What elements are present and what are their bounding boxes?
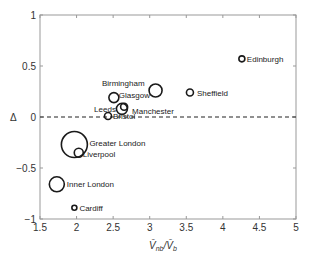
data-point-label: Cardiff	[79, 204, 103, 213]
scatter-chart: 1.522.533.544.5510.50−0.5−1 EdinburghShe…	[0, 0, 309, 262]
x-tick-label: 5	[293, 222, 299, 233]
data-point-label: Sheffield	[197, 89, 228, 98]
x-tick-label: 4	[220, 222, 226, 233]
data-point-label: Greater London	[89, 139, 145, 148]
data-point-marker	[186, 89, 193, 96]
data-point-label: Liverpool	[83, 150, 116, 159]
data-point-label: Manchester	[132, 107, 174, 116]
data-point-label: Edinburgh	[247, 55, 283, 64]
data-point-marker	[239, 56, 245, 62]
data-point-label: Birmingham	[102, 79, 145, 88]
data-point-label: Inner London	[67, 180, 114, 189]
axes: 1.522.533.544.5510.50−0.5−1	[16, 10, 299, 233]
x-label-sub1: nb	[156, 245, 164, 252]
data-point-label: Bristol	[113, 112, 135, 121]
data-point-marker	[72, 205, 77, 210]
y-axis-label: Δ	[10, 112, 17, 123]
x-label-sub2: b	[173, 245, 177, 252]
x-tick-label: 2	[74, 222, 80, 233]
data-point-marker	[49, 177, 64, 192]
x-axis-label: V̄nb/V̄b	[149, 239, 177, 252]
x-tick-label: 2.5	[106, 222, 120, 233]
y-tick-label: 1	[30, 10, 36, 21]
data-points: EdinburghSheffieldBirminghamGlasgowLeeds…	[49, 55, 283, 213]
data-point-marker	[109, 93, 119, 103]
data-point-label: Glasgow	[119, 91, 150, 100]
y-tick-label: 0	[30, 112, 36, 123]
data-point-marker	[149, 84, 162, 97]
x-tick-label: 3	[147, 222, 153, 233]
y-tick-label: 0.5	[22, 61, 36, 72]
x-tick-label: 4.5	[252, 222, 266, 233]
y-tick-label: −0.5	[16, 163, 36, 174]
x-tick-label: 3.5	[179, 222, 193, 233]
y-tick-label: −1	[25, 214, 37, 225]
